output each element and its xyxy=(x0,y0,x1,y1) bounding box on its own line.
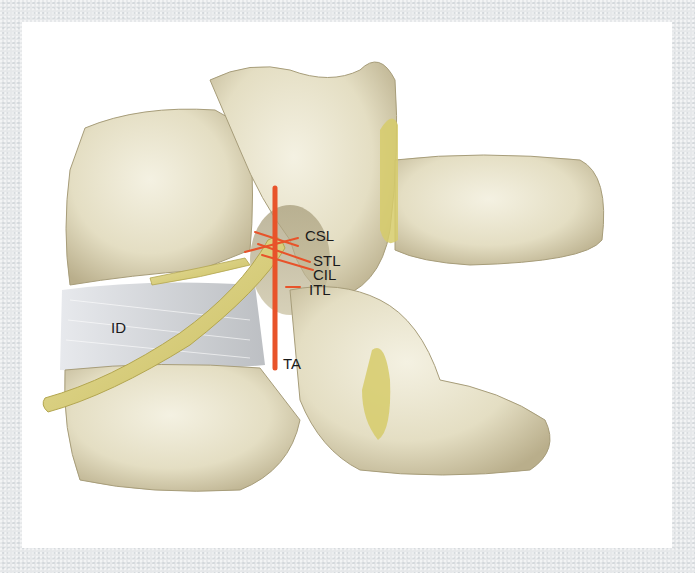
label-itl: ITL xyxy=(309,282,331,297)
ligamentum-flavum-upper xyxy=(380,119,398,244)
label-id: ID xyxy=(111,320,126,335)
label-cil: CIL xyxy=(313,267,336,282)
vertebrae-illustration xyxy=(0,0,695,573)
upper-vertebral-body xyxy=(66,109,253,285)
label-ta: TA xyxy=(283,356,301,371)
upper-transverse-process xyxy=(395,155,604,265)
label-csl: CSL xyxy=(305,228,334,243)
lower-articular-process xyxy=(290,287,550,475)
